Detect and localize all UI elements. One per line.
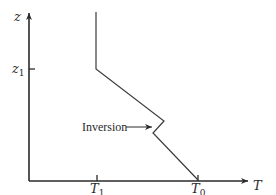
t-axis-label: T (253, 178, 263, 193)
profile-diagram: z z1 T1 T0 T Inversion (0, 0, 276, 195)
t1-label: T1 (90, 181, 104, 195)
temperature-profile-line (96, 12, 198, 180)
t0-label: T0 (191, 181, 206, 195)
z1-label: z1 (11, 61, 25, 78)
z-axis-label: z (13, 9, 21, 24)
inversion-label: Inversion (82, 120, 127, 134)
